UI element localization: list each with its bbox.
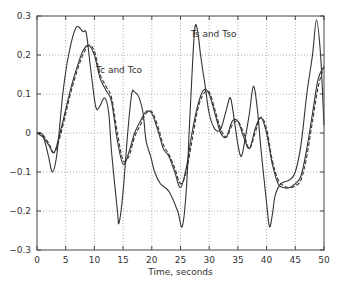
x-tick-label: 10 <box>89 255 101 265</box>
y-tick-label: 0.3 <box>17 11 31 21</box>
x-tick-label: 30 <box>203 255 215 265</box>
y-tick-label: −0.3 <box>9 245 31 255</box>
y-tick-label: −0.2 <box>9 206 31 216</box>
grid-lines <box>37 16 324 250</box>
x-tick-label: 25 <box>175 255 186 265</box>
y-tick-label: 0 <box>25 128 31 138</box>
x-axis-label: Time, seconds <box>147 267 213 277</box>
axis-ticks: 05101520253035404550−0.3−0.2−0.100.10.20… <box>9 11 330 265</box>
x-tick-label: 45 <box>290 255 301 265</box>
x-tick-label: 0 <box>34 255 40 265</box>
x-tick-label: 35 <box>232 255 243 265</box>
y-tick-label: −0.1 <box>9 167 31 177</box>
annotations: Tc and TcoTs and Tso <box>95 29 237 74</box>
y-tick-label: 0.1 <box>17 89 31 99</box>
line-chart: 05101520253035404550−0.3−0.2−0.100.10.20… <box>0 0 345 292</box>
x-tick-label: 5 <box>63 255 69 265</box>
annotation-label: Tc and Tco <box>95 65 142 75</box>
x-tick-label: 40 <box>261 255 273 265</box>
x-tick-label: 20 <box>146 255 158 265</box>
x-tick-label: 50 <box>318 255 330 265</box>
y-tick-label: 0.2 <box>17 50 31 60</box>
x-tick-label: 15 <box>117 255 128 265</box>
annotation-label: Ts and Tso <box>190 29 237 39</box>
